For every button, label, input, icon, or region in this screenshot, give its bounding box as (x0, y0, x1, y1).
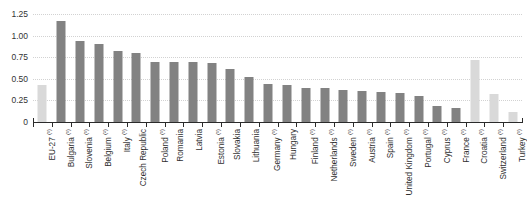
bar-chart: 1.251.000.750.500.250 EU-27 (¹)Bulgaria … (0, 0, 527, 200)
bar-slot (240, 10, 259, 122)
x-axis-category-label: United Kingdom (¹) (403, 129, 414, 196)
bar-slot (71, 10, 90, 122)
x-axis-category-label: Bulgaria (¹) (65, 129, 76, 167)
x-axis-tick (353, 122, 354, 127)
bar[interactable] (489, 94, 498, 122)
x-axis-tick (315, 122, 316, 127)
bar-slot (428, 10, 447, 122)
x-axis-tick (202, 122, 203, 127)
bar-slot (372, 10, 391, 122)
y-axis-tick-label: 0.25 (2, 95, 28, 105)
bar-slot (296, 10, 315, 122)
x-axis-tick (428, 122, 429, 127)
x-axis-category-label: Sweden (¹) (347, 129, 358, 167)
bar[interactable] (358, 91, 367, 122)
bar[interactable] (170, 62, 179, 122)
x-axis-category-label: Czech Republic (140, 129, 148, 186)
bar[interactable] (132, 53, 141, 122)
bar[interactable] (94, 44, 103, 122)
x-axis-tick (89, 122, 90, 127)
bar[interactable] (320, 88, 329, 122)
x-axis-tick (409, 122, 410, 127)
bar-slot (353, 10, 372, 122)
x-axis-category-label: Spain (¹) (384, 129, 395, 158)
bar-slot (409, 10, 428, 122)
x-axis-category-label: Finland (¹) (309, 129, 320, 164)
bar[interactable] (226, 69, 235, 122)
bar[interactable] (433, 106, 442, 122)
bar[interactable] (207, 63, 216, 122)
x-axis-category-label: Portugal (¹) (422, 129, 433, 168)
x-axis-start-cap (33, 118, 34, 123)
bar[interactable] (264, 84, 273, 122)
bar-slot (33, 10, 52, 122)
y-axis-tick-label: 0 (2, 117, 28, 127)
bar[interactable] (452, 108, 461, 122)
x-axis-tick (334, 122, 335, 127)
x-axis-tick (165, 122, 166, 127)
x-axis-tick (221, 122, 222, 127)
x-axis-tick (240, 122, 241, 127)
x-axis-category-label: Slovenia (¹) (83, 129, 94, 169)
x-axis-category-label: Estonia (¹) (215, 129, 226, 165)
bar[interactable] (151, 62, 160, 122)
bar-slot (503, 10, 522, 122)
bar-slot (259, 10, 278, 122)
x-axis-category-label: Belgium (²) (102, 129, 113, 167)
bar-slot (334, 10, 353, 122)
bar[interactable] (414, 96, 423, 122)
x-axis-category-label: Austria (¹) (366, 129, 377, 163)
bar[interactable] (470, 60, 479, 122)
y-axis-tick-label: 1.25 (2, 9, 28, 19)
bar[interactable] (113, 51, 122, 123)
bar[interactable] (282, 85, 291, 122)
x-axis-category-label: France (¹) (460, 129, 471, 163)
x-axis-tick (259, 122, 260, 127)
bar[interactable] (301, 88, 310, 122)
x-axis-tick (466, 122, 467, 127)
x-axis-category-label: Slovakia (234, 129, 242, 160)
bar-slot (202, 10, 221, 122)
x-axis-category-label: Switzerland (¹) (497, 129, 508, 180)
x-axis-tick (52, 122, 53, 127)
bar[interactable] (376, 92, 385, 122)
bar-slot (221, 10, 240, 122)
bar[interactable] (188, 62, 197, 122)
x-axis-tick (390, 122, 391, 127)
x-axis-category-label: Lithuania (253, 129, 261, 162)
bar[interactable] (339, 90, 348, 122)
x-axis-category-label: Poland (¹) (159, 129, 170, 163)
bar-slot (165, 10, 184, 122)
x-axis-category-label: Netherlands (¹) (328, 129, 339, 181)
y-axis-tick-label: 0.75 (2, 52, 28, 62)
bar[interactable] (38, 85, 47, 122)
x-axis-category-label: Latvia (196, 129, 204, 151)
bar-slot (390, 10, 409, 122)
x-axis-tick (447, 122, 448, 127)
x-axis-end-cap (522, 118, 523, 123)
bar[interactable] (245, 77, 254, 122)
bar[interactable] (395, 93, 404, 122)
x-axis-tick (108, 122, 109, 127)
bar-slot (108, 10, 127, 122)
x-axis-category-label: Romania (177, 129, 185, 162)
bar[interactable] (508, 112, 517, 122)
y-axis-tick-label: 0.50 (2, 74, 28, 84)
x-axis-category-label: Turkey (¹) (516, 129, 527, 162)
x-axis-tick (503, 122, 504, 127)
bar-slot (52, 10, 71, 122)
x-axis-category-labels: EU-27 (¹)Bulgaria (¹)Slovenia (¹)Belgium… (33, 129, 522, 200)
bar-slot (89, 10, 108, 122)
x-axis-category-label: Croatia (¹) (478, 129, 489, 164)
x-axis-tick (71, 122, 72, 127)
bar-slot (278, 10, 297, 122)
x-axis-tick (296, 122, 297, 127)
x-axis-tick (372, 122, 373, 127)
y-axis-tick-label: 1.00 (2, 31, 28, 41)
bar[interactable] (57, 21, 66, 122)
x-axis-category-label: Italy (¹) (121, 129, 132, 152)
bar-slot (466, 10, 485, 122)
x-axis-tick (127, 122, 128, 127)
x-axis-tick (484, 122, 485, 127)
bar[interactable] (76, 41, 85, 122)
